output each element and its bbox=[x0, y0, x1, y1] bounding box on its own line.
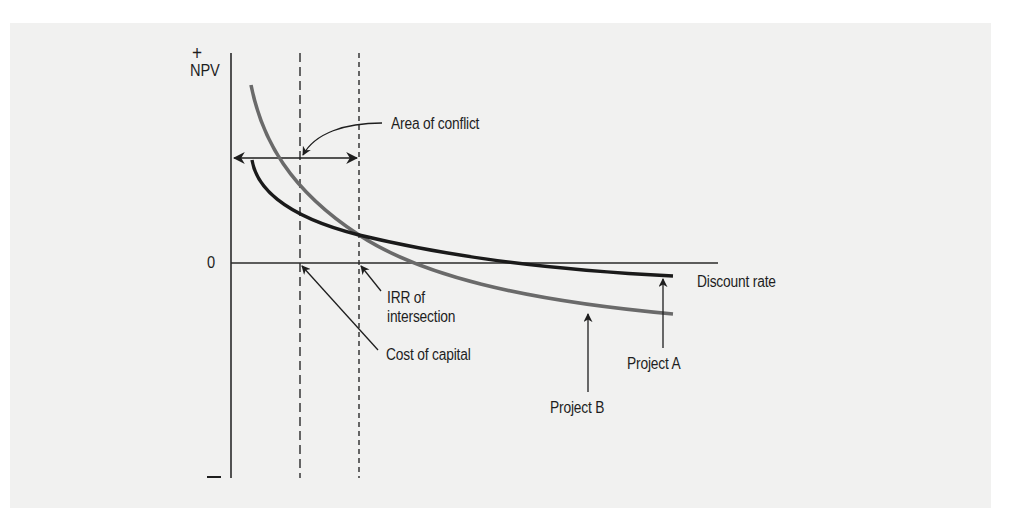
y-axis-plus-symbol: + bbox=[192, 44, 202, 62]
y-axis-label-npv: NPV bbox=[190, 62, 220, 80]
irr-leader-arrow bbox=[361, 266, 381, 291]
irr-label-line2: intersection bbox=[387, 308, 455, 326]
irr-label-line1: IRR of bbox=[387, 289, 425, 307]
area-of-conflict-leader bbox=[303, 123, 382, 155]
x-axis-label-discount-rate: Discount rate bbox=[697, 273, 776, 291]
npv-profile-chart bbox=[0, 0, 1017, 527]
y-tick-zero: 0 bbox=[207, 254, 215, 272]
project-a-curve bbox=[252, 160, 673, 276]
project-a-label: Project A bbox=[627, 355, 681, 373]
cost-of-capital-label: Cost of capital bbox=[386, 346, 471, 364]
cost-of-capital-leader-arrow bbox=[302, 266, 378, 350]
project-b-label: Project B bbox=[550, 399, 604, 417]
area-of-conflict-label: Area of conflict bbox=[391, 115, 479, 133]
